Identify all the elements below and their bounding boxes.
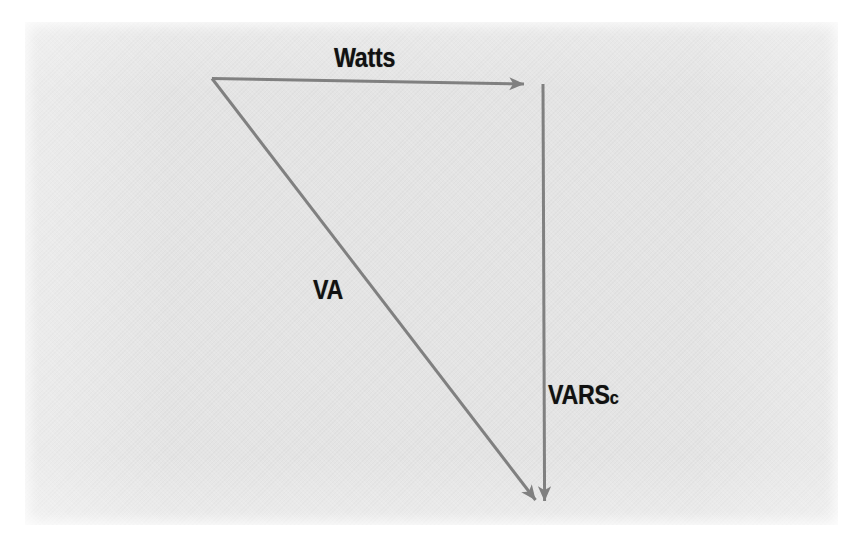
figure-canvas: Watts VA VARSc	[0, 0, 863, 548]
varsc-label: VARSc	[548, 380, 619, 411]
va-vector	[212, 79, 536, 501]
va-label: VA	[313, 275, 343, 306]
varsc-label-main: VARS	[548, 380, 610, 410]
varsc-label-subscript: c	[610, 387, 619, 408]
watts-vector	[212, 79, 524, 85]
varsc-vector	[543, 84, 545, 501]
watts-label: Watts	[334, 43, 395, 74]
vector-diagram	[0, 0, 863, 548]
